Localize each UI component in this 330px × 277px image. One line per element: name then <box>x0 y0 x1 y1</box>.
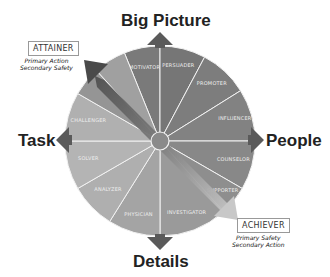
attainer-note-line1: Primary Action <box>20 57 73 64</box>
axis-label-bottom: Details <box>133 253 189 270</box>
wheel-segment-label: COUNSELOR <box>217 156 250 162</box>
achiever-note: Primary Safety Secondary Action <box>232 234 285 248</box>
arrow-up-icon <box>147 32 173 48</box>
wheel-segment-label: CHALLENGER <box>71 117 107 123</box>
achiever-note-line1: Primary Safety <box>232 234 285 241</box>
axis-label-left: Task <box>18 132 56 149</box>
axis-label-right: People <box>266 132 322 149</box>
achiever-note-line2: Secondary Action <box>232 241 285 248</box>
wheel-hub <box>151 132 169 150</box>
attainer-note: Primary Action Secondary Safety <box>20 57 73 71</box>
wheel-segment-label: PROMOTER <box>197 80 227 86</box>
wheel-segment-label: PHYSICIAN <box>124 211 152 217</box>
wheel-segment-label: PERSUADER <box>162 62 195 68</box>
wheel-segment-label: SOLVER <box>78 155 99 161</box>
wheel-segment-label: INFLUENCER <box>218 115 252 121</box>
wheel-segment-label: MOTIVATOR <box>129 64 161 70</box>
achiever-label-box: ACHIEVER <box>237 218 290 233</box>
axis-label-top: Big Picture <box>121 12 211 29</box>
wheel-segment-label: ANALYZER <box>94 186 122 192</box>
wheel-segment-label: INVESTIGATOR <box>167 209 207 215</box>
attainer-note-line2: Secondary Safety <box>20 64 73 71</box>
attainer-label-box: ATTAINER <box>28 41 79 56</box>
arrow-down-icon <box>147 234 173 250</box>
